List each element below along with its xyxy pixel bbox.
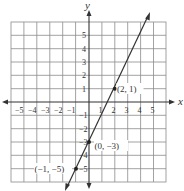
x-tick-label: −1 <box>67 106 76 115</box>
point-label-neg1-neg5: (−1, −5) <box>35 164 65 174</box>
y-axis-down-arrow-icon <box>87 183 92 189</box>
x-tick-label: 5 <box>151 106 155 115</box>
y-tick-label: 1 <box>82 85 86 94</box>
x-tick-label: 2 <box>112 106 116 115</box>
x-tick-label: 4 <box>138 106 142 115</box>
y-tick-label: −2 <box>79 125 88 134</box>
x-axis-label: x <box>177 95 183 107</box>
x-axis-right-arrow-icon <box>169 100 175 105</box>
line-bottom-arrow-icon <box>65 183 70 191</box>
y-tick-label: 3 <box>82 58 86 67</box>
x-tick-label: 3 <box>125 106 129 115</box>
y-tick-label: 4 <box>82 45 86 54</box>
x-tick-label: −3 <box>41 106 50 115</box>
x-tick-label: −2 <box>54 106 63 115</box>
y-axis-label: y <box>84 0 90 11</box>
point-neg1-neg5 <box>74 167 78 171</box>
coordinate-plane: y x −5 −4 −3 −2 −1 1 2 3 4 5 5 4 3 2 1 −… <box>0 0 184 191</box>
y-tick-label: −5 <box>79 165 88 174</box>
x-tick-label: −5 <box>15 106 24 115</box>
point-label-0-neg3: (0, −3) <box>95 141 120 151</box>
point-0-neg3 <box>87 140 91 144</box>
y-tick-label: −1 <box>79 111 88 120</box>
point-label-2-1: (2, 1) <box>117 84 137 94</box>
axes <box>5 12 172 186</box>
y-tick-label: 5 <box>82 31 86 40</box>
y-tick-label: 2 <box>82 71 86 80</box>
x-tick-label: −4 <box>28 106 37 115</box>
x-axis-left-arrow-icon <box>2 100 8 105</box>
